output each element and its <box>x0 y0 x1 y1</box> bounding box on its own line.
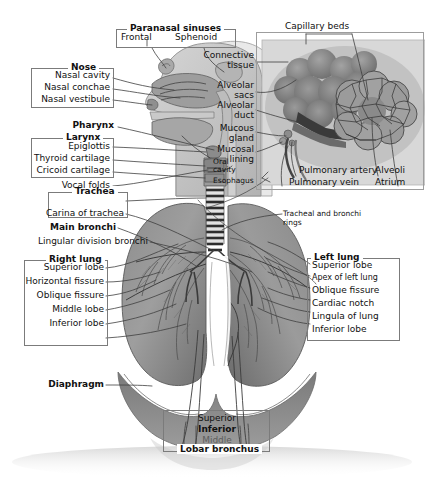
label-tracheal-rings-1: Tracheal and bronchi <box>283 210 361 218</box>
label-lobar-inferior: Inferior <box>183 425 251 434</box>
label-lingular-division-bronchi: Lingular division bronchi <box>14 237 148 246</box>
label-atrium: Atrium <box>375 178 405 187</box>
label-mucous-gland-2: gland <box>188 134 254 143</box>
label-alveoli: Alveoli <box>375 166 405 175</box>
label-tracheal-rings-2: rings <box>283 219 302 227</box>
label-middle-lobe: Middle lobe <box>26 305 104 314</box>
label-oral-cavity-2: cavity <box>213 166 236 174</box>
label-alveolar-duct-2: duct <box>188 111 254 120</box>
label-cardiac-notch: Cardiac notch <box>312 299 374 308</box>
label-left-oblique-fissure: Oblique fissure <box>312 286 379 295</box>
label-main-bronchi: Main bronchi <box>34 223 116 232</box>
label-capillary-beds: Capillary beds <box>285 22 349 31</box>
label-pharynx: Pharynx <box>34 121 114 130</box>
label-epiglottis: Epiglottis <box>34 142 110 151</box>
label-horizontal-fissure: Horizontal fissure <box>16 277 104 286</box>
label-thyroid-cartilage: Thyroid cartilage <box>26 154 110 163</box>
label-diaphragm: Diaphragm <box>24 380 104 389</box>
label-lobar-superior: Superior <box>183 414 251 423</box>
label-nasal-cavity: Nasal cavity <box>34 71 110 80</box>
label-vocal-folds: Vocal folds <box>34 181 110 190</box>
label-left-inferior-lobe: Inferior lobe <box>312 325 367 334</box>
label-lingula-of-lung: Lingula of lung <box>312 312 379 321</box>
label-pulmonary-vein: Pulmonary vein <box>289 178 359 187</box>
label-pulmonary-artery: Pulmonary artery <box>299 166 377 175</box>
label-cricoid-cartilage: Cricoid cartilage <box>26 166 110 175</box>
lobar-bronchus-title: Lobar bronchus <box>177 444 262 454</box>
label-right-inferior-lobe: Inferior lobe <box>26 319 104 328</box>
label-carina-of-trachea: Carina of trachea <box>45 209 124 218</box>
label-frontal: Frontal <box>121 33 152 42</box>
label-connective-tissue-2: tissue <box>188 61 254 70</box>
label-right-superior-lobe: Superior lobe <box>26 263 104 272</box>
diagram-canvas: Paranasal sinuses Nose Larynx Trachea Ri… <box>0 0 425 477</box>
label-apex-of-left-lung: Apex of left lung <box>312 274 378 282</box>
right-lung-box <box>24 260 108 346</box>
label-sphenoid: Sphenoid <box>175 33 217 42</box>
label-right-oblique-fissure: Oblique fissure <box>22 291 104 300</box>
label-nasal-vestibule: Nasal vestibule <box>34 95 110 104</box>
label-nasal-conchae: Nasal conchae <box>34 83 110 92</box>
label-left-superior-lobe: Superior lobe <box>312 261 372 270</box>
label-esophagus: Esophagus <box>213 177 254 185</box>
label-lobar-middle: Middle <box>183 436 251 445</box>
